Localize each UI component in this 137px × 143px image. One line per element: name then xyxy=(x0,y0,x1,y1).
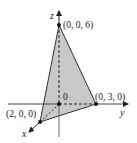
point-origin xyxy=(57,102,61,106)
shaded-plane-triangle xyxy=(40,25,96,122)
label-y-intercept: (0, 3, 0) xyxy=(95,92,125,103)
x-axis-label: x xyxy=(21,128,27,139)
x-axis-front xyxy=(29,122,40,132)
point-y-intercept xyxy=(94,102,98,106)
label-x-intercept: (2, 0, 0) xyxy=(6,109,36,120)
point-z-intercept xyxy=(57,23,61,27)
diagram-canvas: z y x 0 (0, 0, 6) (0, 3, 0) (2, 0, 0) xyxy=(0,0,137,143)
origin-label: 0 xyxy=(63,92,68,102)
label-z-intercept: (0, 0, 6) xyxy=(63,20,93,31)
z-axis-label: z xyxy=(49,10,54,21)
y-axis-label: y xyxy=(119,107,125,118)
point-x-intercept xyxy=(38,120,42,124)
